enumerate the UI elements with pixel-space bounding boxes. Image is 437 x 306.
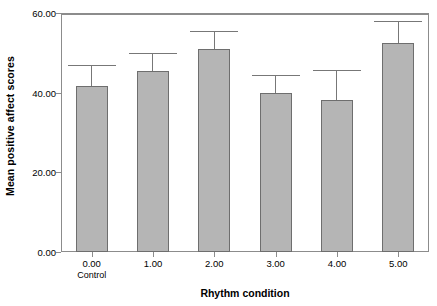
bar-group xyxy=(76,13,108,252)
bar xyxy=(137,71,169,252)
bar-group xyxy=(137,13,169,252)
y-axis-tick-label: 40.00 xyxy=(32,87,56,98)
x-axis-tick xyxy=(337,252,338,257)
x-axis-tick-label-value: 0.00 xyxy=(82,258,101,269)
bar-group xyxy=(198,13,230,252)
bar-group xyxy=(321,13,353,252)
x-axis-tick-sublabel: Control xyxy=(77,270,106,280)
y-axis-tick-label: 0.00 xyxy=(38,247,57,258)
bar xyxy=(382,43,414,252)
error-bar-cap xyxy=(374,21,422,22)
x-axis-tick-label: 4.00 xyxy=(328,258,347,269)
x-axis-tick xyxy=(92,252,93,257)
bar xyxy=(198,49,230,252)
x-axis-tick xyxy=(276,252,277,257)
x-axis-tick xyxy=(398,252,399,257)
x-axis-tick-label: 5.00 xyxy=(389,258,408,269)
error-bar-cap xyxy=(190,31,238,32)
bars-layer xyxy=(61,13,429,252)
error-bar-stem xyxy=(214,32,215,49)
error-bar-stem xyxy=(336,71,337,100)
bar xyxy=(260,93,292,252)
bar-group xyxy=(382,13,414,252)
y-axis-tick-label: 20.00 xyxy=(32,167,56,178)
error-bar-stem xyxy=(91,66,92,86)
x-axis-tick xyxy=(153,252,154,257)
x-axis-tick-label-value: 1.00 xyxy=(144,258,163,269)
x-axis-tick-label-value: 2.00 xyxy=(205,258,224,269)
error-bar-cap xyxy=(68,65,116,66)
error-bar-stem xyxy=(398,22,399,43)
bar xyxy=(321,100,353,252)
x-axis-tick-label-value: 5.00 xyxy=(389,258,408,269)
x-axis-tick-label: 1.00 xyxy=(144,258,163,269)
bar-group xyxy=(260,13,292,252)
error-bar-cap xyxy=(129,53,177,54)
x-axis-tick-label: 0.00Control xyxy=(77,258,106,280)
bar-chart: Mean positive affect scores 0.0020.0040.… xyxy=(0,0,437,306)
error-bar-cap xyxy=(252,75,300,76)
x-axis-tick-label: 3.00 xyxy=(266,258,285,269)
x-axis-tick xyxy=(214,252,215,257)
x-axis-tick-label-value: 3.00 xyxy=(266,258,285,269)
error-bar-cap xyxy=(313,70,361,71)
bar xyxy=(76,86,108,253)
y-axis-tick-labels: 0.0020.0040.0060.00 xyxy=(18,0,60,306)
x-axis-tick-label: 2.00 xyxy=(205,258,224,269)
error-bar-stem xyxy=(275,76,276,93)
error-bar-stem xyxy=(152,54,153,71)
y-axis-title-text: Mean positive affect scores xyxy=(4,56,16,196)
x-axis-title: Rhythm condition xyxy=(61,287,429,299)
y-axis-tick-label: 60.00 xyxy=(32,8,56,19)
y-axis-title: Mean positive affect scores xyxy=(0,0,20,252)
x-axis-tick-label-value: 4.00 xyxy=(328,258,347,269)
